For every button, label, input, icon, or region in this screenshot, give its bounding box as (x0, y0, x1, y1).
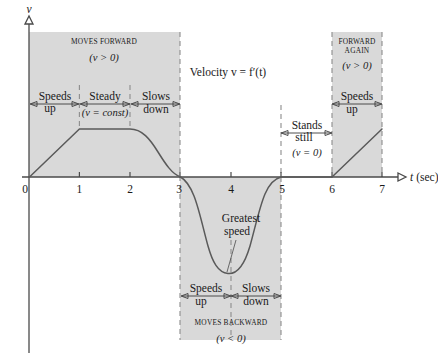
y-axis-arrowhead (25, 16, 33, 24)
forward-again-label-line2: AGAIN (345, 46, 370, 55)
x-tick-label-0: 0 (22, 183, 28, 195)
stands-still-line2: still (295, 131, 312, 143)
moves-backward-label-line1: MOVES BACKWARD (195, 318, 268, 327)
greatest-speed-line2: speed (224, 225, 250, 238)
greatest-speed-line1: Greatest (222, 212, 261, 224)
x-axis-arrowhead (398, 173, 406, 181)
x-tick-label-6: 6 (329, 183, 335, 195)
x-axis-label: t(sec) (410, 171, 438, 184)
forward-again-label-line1: FORWARD (338, 37, 376, 46)
stands-still-group: Stands still (v = 0) (281, 119, 332, 159)
velocity-title-group: Velocity v = f′(t) (190, 66, 267, 79)
moves-forward-label-line2-full: (v > 0) (89, 52, 119, 64)
velocity-title: Velocity v = f′(t) (190, 66, 267, 79)
steady-line1: Steady (89, 90, 121, 103)
speeds-up-2-line2: up (195, 295, 207, 308)
stands-still-line1: Stands (292, 119, 323, 131)
x-tick-label-3: 3 (176, 183, 182, 195)
slows-down-2-line1: Slows (242, 282, 271, 294)
velocity-graph-svg: 0 1 2 3 4 5 6 7 v t(sec) MOVES FORWARD (… (0, 0, 438, 353)
moves-forward-label-line1: MOVES FORWARD (71, 37, 138, 46)
slows-down-1-line2: down (143, 103, 169, 115)
forward-again-label-line3: (v > 0) (342, 60, 372, 72)
x-tick-label-7: 7 (379, 183, 385, 195)
x-tick-label-2: 2 (127, 183, 133, 195)
x-axis-label-var: t (410, 171, 414, 183)
moves-backward-label-line2: (v < 0) (216, 333, 246, 345)
speeds-up-3-line1: Speeds (341, 90, 374, 103)
x-tick-label-4: 4 (228, 183, 234, 195)
speeds-up-1-line2: up (44, 102, 56, 115)
velocity-graph-figure: 0 1 2 3 4 5 6 7 v t(sec) MOVES FORWARD (… (0, 0, 438, 353)
x-tick-label-5: 5 (279, 183, 285, 195)
speeds-up-2-line1: Speeds (190, 282, 223, 295)
x-axis-label-unit: (sec) (416, 171, 438, 184)
x-tick-label-1: 1 (77, 183, 83, 195)
stands-still-line3: (v = 0) (292, 147, 322, 159)
steady-line2: (v = const) (82, 107, 129, 119)
slows-down-2-line2: down (243, 295, 269, 307)
y-axis-label: v (26, 3, 32, 15)
slows-down-1-line1: Slows (142, 90, 171, 102)
speeds-up-3-line2: up (346, 103, 358, 116)
